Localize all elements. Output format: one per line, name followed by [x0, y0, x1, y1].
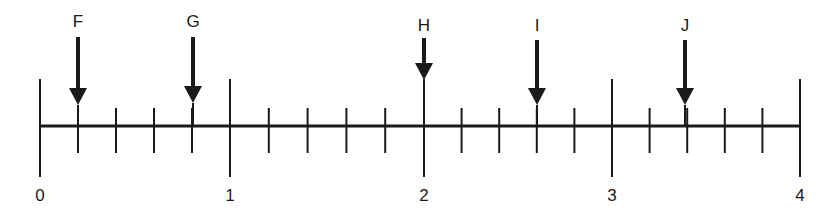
arrow-down-icon [528, 88, 546, 105]
tick-label-2: 2 [419, 186, 428, 206]
arrow-down-icon [184, 86, 202, 103]
arrow-down-icon [676, 88, 694, 105]
marker-label-g: G [186, 12, 199, 32]
tick-label-0: 0 [35, 186, 44, 206]
marker-label-f: F [73, 12, 83, 32]
arrow-down-icon [69, 88, 87, 105]
number-line-diagram: 01234FGHIJ [0, 0, 835, 216]
arrow-down-icon [415, 63, 433, 80]
marker-label-i: I [535, 16, 540, 36]
tick-label-3: 3 [607, 186, 616, 206]
marker-label-j: J [681, 16, 690, 36]
marker-label-h: H [418, 16, 430, 36]
tick-label-1: 1 [225, 186, 234, 206]
tick-label-4: 4 [795, 186, 804, 206]
